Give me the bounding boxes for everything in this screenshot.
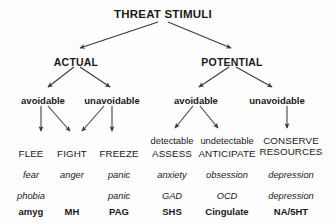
- substrate-fight: MH: [65, 206, 80, 217]
- emotion-flee: fear: [23, 170, 39, 180]
- qualifier-assess: detectable: [151, 136, 194, 146]
- arrow-root-to-potential: [168, 22, 231, 48]
- arrow-avoidable2-to-assess: [175, 106, 193, 128]
- emotion-assess: anxiety: [157, 170, 186, 180]
- arrow-potential-to-avoidable: [199, 67, 229, 87]
- substrate-conserve-resources: NA/5HT: [274, 206, 308, 217]
- arrow-actual-to-unavoidable: [80, 67, 110, 87]
- arrow-potential-to-unavoidable: [236, 67, 272, 87]
- column-head-assess: ASSESS: [152, 149, 192, 160]
- arrow-unavoidable-to-fight: [82, 106, 104, 131]
- arrow-avoidable2-to-anticipate: [200, 106, 218, 128]
- disorder-flee: phobia: [17, 191, 45, 201]
- column-head-anticipate: ANTICIPATE: [198, 149, 255, 160]
- disorder-anticipate: OCD: [217, 191, 238, 201]
- column-head-conserve-resources: CONSERVE RESOURCES: [260, 136, 323, 158]
- node-potential-unavoidable: unavoidable: [249, 96, 304, 106]
- threat-stimuli-diagram: THREAT STIMULI ACTUAL POTENTIAL avoidabl…: [0, 0, 335, 224]
- substrate-anticipate: Cingulate: [205, 206, 248, 217]
- emotion-anticipate: obsession: [206, 170, 248, 180]
- substrate-flee: amyg: [19, 206, 44, 217]
- arrow-actual-to-avoidable: [48, 67, 74, 87]
- node-potential: POTENTIAL: [201, 57, 262, 68]
- disorder-freeze: panic: [108, 191, 130, 201]
- substrate-freeze: PAG: [109, 206, 129, 217]
- column-head-flee: FLEE: [19, 149, 44, 160]
- node-actual: ACTUAL: [54, 57, 98, 68]
- root-node-threat-stimuli: THREAT STIMULI: [114, 8, 212, 20]
- column-head-conserve-line2: RESOURCES: [260, 147, 323, 158]
- arrow-root-to-actual: [80, 22, 158, 48]
- disorder-conserve-resources: depression: [268, 191, 313, 201]
- emotion-fight: anger: [60, 170, 84, 180]
- column-head-freeze: FREEZE: [99, 149, 138, 160]
- node-potential-avoidable: avoidable: [174, 96, 218, 106]
- disorder-assess: GAD: [162, 191, 182, 201]
- substrate-assess: SHS: [162, 206, 182, 217]
- node-actual-unavoidable: unavoidable: [84, 96, 139, 106]
- arrow-avoidable-to-fight: [48, 106, 70, 131]
- node-actual-avoidable: avoidable: [21, 96, 65, 106]
- emotion-freeze: panic: [108, 170, 130, 180]
- qualifier-anticipate: undetectable: [200, 136, 253, 146]
- column-head-fight: FIGHT: [57, 149, 87, 160]
- emotion-conserve-resources: depression: [268, 170, 313, 180]
